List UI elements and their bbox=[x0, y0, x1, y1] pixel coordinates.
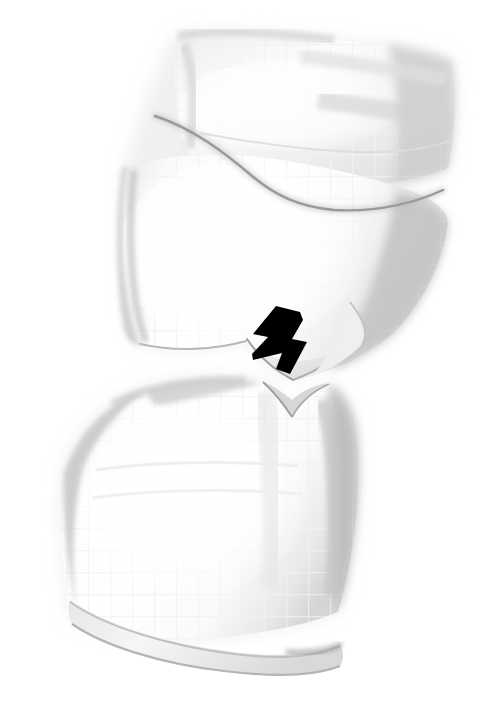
vertebrae-illustration-canvas bbox=[0, 0, 491, 726]
lower-center-shadow bbox=[262, 392, 275, 588]
upper-body-highlight bbox=[118, 160, 362, 344]
anatomical-figure: Vertebral body compression deformity Upp… bbox=[0, 0, 491, 726]
